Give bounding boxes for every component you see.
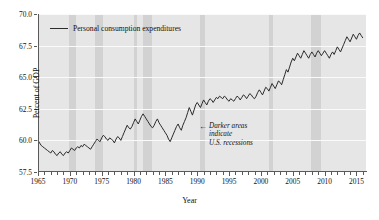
annotation-line-3: U.S. recessions — [209, 139, 253, 147]
x-tick-mark-minor — [51, 172, 52, 175]
y-tick-label: 65.0 — [19, 73, 32, 82]
x-tick-mark-minor — [331, 172, 332, 175]
x-tick-mark-minor — [44, 172, 45, 175]
x-tick-label: 1990 — [190, 177, 205, 186]
x-tick-mark-minor — [127, 172, 128, 175]
x-tick-mark-minor — [178, 172, 179, 175]
x-tick-label: 1985 — [158, 177, 173, 186]
x-tick-mark-major — [197, 172, 198, 176]
x-tick-mark-minor — [235, 172, 236, 175]
x-tick-mark-major — [229, 172, 230, 176]
x-tick-mark-minor — [242, 172, 243, 175]
x-tick-mark-minor — [216, 172, 217, 175]
y-tick-label: 67.5 — [19, 41, 32, 50]
y-axis-title: Percent of GDP — [32, 33, 41, 153]
x-tick-mark-minor — [83, 172, 84, 175]
x-tick-mark-minor — [76, 172, 77, 175]
x-tick-mark-minor — [286, 172, 287, 175]
x-tick-label: 2010 — [317, 177, 332, 186]
legend-label: Personal consumption expenditures — [73, 24, 181, 33]
x-tick-mark-minor — [318, 172, 319, 175]
y-tick-mark — [34, 14, 37, 15]
x-tick-mark-minor — [363, 172, 364, 175]
x-tick-mark-minor — [305, 172, 306, 175]
series-personal-consumption-expenditures — [38, 14, 366, 172]
x-tick-mark-minor — [172, 172, 173, 175]
plot-area — [38, 14, 366, 172]
x-tick-mark-major — [134, 172, 135, 176]
x-tick-mark-minor — [248, 172, 249, 175]
legend: Personal consumption expenditures — [50, 24, 181, 33]
x-tick-label: 1980 — [126, 177, 141, 186]
x-tick-mark-major — [102, 172, 103, 176]
x-axis-title: Year — [0, 196, 379, 205]
x-tick-mark-minor — [114, 172, 115, 175]
x-tick-label: 2000 — [254, 177, 269, 186]
annotation-text: Darker areas indicate U.S. recessions — [209, 122, 253, 147]
x-tick-mark-minor — [153, 172, 154, 175]
annotation-line-1: Darker areas — [209, 122, 247, 130]
x-tick-mark-minor — [63, 172, 64, 175]
x-tick-mark-minor — [255, 172, 256, 175]
x-tick-mark-minor — [146, 172, 147, 175]
x-tick-label: 1975 — [94, 177, 109, 186]
x-tick-mark-minor — [344, 172, 345, 175]
x-tick-mark-minor — [337, 172, 338, 175]
y-tick-label: 62.5 — [19, 104, 32, 113]
y-tick-label: 60.0 — [19, 136, 32, 145]
chart-container: 57.560.062.565.067.570.0 196519701975198… — [0, 0, 379, 220]
x-tick-mark-minor — [191, 172, 192, 175]
x-tick-mark-minor — [204, 172, 205, 175]
x-tick-label: 1965 — [31, 177, 46, 186]
x-tick-mark-major — [293, 172, 294, 176]
y-axis-title-holder: Percent of GDP — [10, 14, 20, 172]
x-tick-mark-minor — [267, 172, 268, 175]
arrow-left-icon: ← — [199, 122, 207, 131]
recession-annotation: ← Darker areas indicate U.S. recessions — [199, 122, 253, 147]
x-tick-label: 1995 — [222, 177, 237, 186]
x-tick-mark-minor — [299, 172, 300, 175]
x-tick-mark-minor — [121, 172, 122, 175]
x-tick-label: 2015 — [349, 177, 364, 186]
y-tick-label: 57.5 — [19, 168, 32, 177]
x-tick-mark-minor — [350, 172, 351, 175]
x-tick-mark-minor — [184, 172, 185, 175]
x-tick-mark-major — [165, 172, 166, 176]
x-tick-mark-minor — [223, 172, 224, 175]
legend-line-swatch — [50, 28, 68, 29]
y-tick-mark — [34, 172, 37, 173]
y-tick-label: 70.0 — [19, 10, 32, 19]
x-tick-mark-minor — [280, 172, 281, 175]
x-tick-mark-minor — [95, 172, 96, 175]
x-tick-mark-minor — [210, 172, 211, 175]
x-tick-mark-major — [356, 172, 357, 176]
x-tick-label: 2005 — [285, 177, 300, 186]
x-axis-ticks: 1965197019751980198519901995200020052010… — [38, 172, 367, 182]
x-tick-mark-major — [325, 172, 326, 176]
x-tick-mark-minor — [108, 172, 109, 175]
annotation-line-2: indicate — [209, 130, 232, 138]
x-tick-mark-minor — [57, 172, 58, 175]
x-tick-mark-major — [70, 172, 71, 176]
x-tick-mark-minor — [140, 172, 141, 175]
x-tick-label: 1970 — [62, 177, 77, 186]
x-tick-mark-major — [261, 172, 262, 176]
x-tick-mark-minor — [89, 172, 90, 175]
x-tick-mark-major — [38, 172, 39, 176]
x-tick-mark-minor — [274, 172, 275, 175]
x-tick-mark-minor — [159, 172, 160, 175]
x-tick-mark-minor — [312, 172, 313, 175]
